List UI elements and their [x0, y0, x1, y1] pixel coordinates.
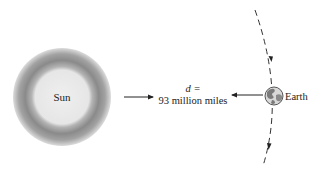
sun-earth-distance-diagram: Sun d = 93 million miles Earth	[0, 0, 323, 172]
sun: Sun	[13, 48, 111, 146]
distance-value: 93 million miles	[159, 95, 228, 106]
distance-label: d = 93 million miles	[159, 83, 228, 106]
earth: Earth	[265, 87, 308, 105]
earth-label: Earth	[285, 91, 308, 102]
sun-label: Sun	[53, 91, 71, 103]
orbit-direction-arrow-top-icon	[269, 56, 274, 62]
distance-variable: d =	[186, 83, 201, 94]
